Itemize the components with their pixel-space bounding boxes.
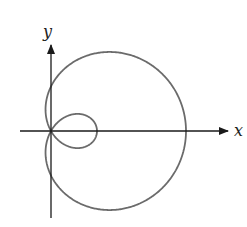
x-axis-label: x — [234, 121, 243, 140]
limacon-diagram: x y — [0, 0, 247, 227]
y-axis-label: y — [42, 22, 53, 41]
